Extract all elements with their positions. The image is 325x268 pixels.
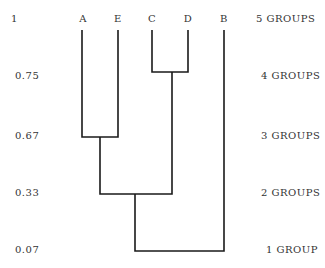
dendrogram-lines	[0, 0, 325, 268]
merge-c-d	[152, 30, 188, 72]
merge-all-b	[135, 30, 224, 251]
merge-ae-cd	[100, 72, 172, 194]
merge-a-e	[82, 30, 118, 137]
